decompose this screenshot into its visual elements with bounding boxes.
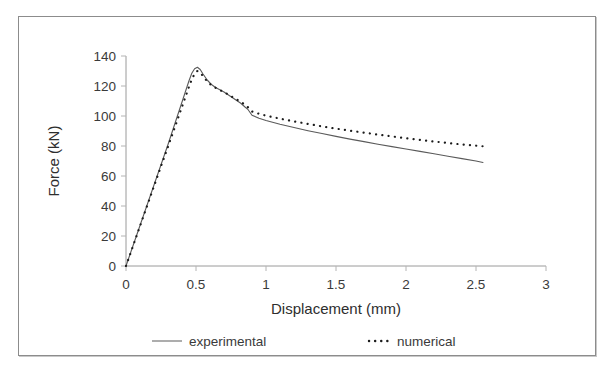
x-tick-label: 2.5 xyxy=(467,277,486,292)
figure-frame: 020406080100120140 00.511.522.53 Force (… xyxy=(18,16,596,356)
x-tick-label: 0 xyxy=(122,277,130,292)
x-tick-label: 3 xyxy=(542,277,550,292)
y-tick-label: 140 xyxy=(93,49,116,64)
legend-label-experimental: experimental xyxy=(189,334,266,349)
y-tick-label: 20 xyxy=(101,229,116,244)
y-axis-title: Force (kN) xyxy=(45,126,62,197)
x-tick-label: 1 xyxy=(262,277,270,292)
x-axis-ticks: 00.511.522.53 xyxy=(122,266,550,292)
x-axis-title: Displacement (mm) xyxy=(271,300,401,317)
y-tick-label: 0 xyxy=(108,259,116,274)
x-tick-label: 0.5 xyxy=(187,277,206,292)
y-axis-ticks: 020406080100120140 xyxy=(93,49,126,274)
y-tick-label: 120 xyxy=(93,79,116,94)
y-tick-label: 40 xyxy=(101,199,116,214)
x-tick-label: 2 xyxy=(402,277,410,292)
force-displacement-chart: 020406080100120140 00.511.522.53 Force (… xyxy=(19,17,597,357)
y-tick-label: 60 xyxy=(101,169,116,184)
series-line-numerical xyxy=(126,71,483,266)
y-tick-label: 80 xyxy=(101,139,116,154)
y-tick-label: 100 xyxy=(93,109,116,124)
x-tick-label: 1.5 xyxy=(327,277,346,292)
series-line-experimental xyxy=(126,67,483,266)
chart-legend: experimental numerical xyxy=(152,334,456,349)
figure-root: 020406080100120140 00.511.522.53 Force (… xyxy=(0,0,611,372)
plot-series-group xyxy=(126,67,483,266)
legend-label-numerical: numerical xyxy=(397,334,456,349)
